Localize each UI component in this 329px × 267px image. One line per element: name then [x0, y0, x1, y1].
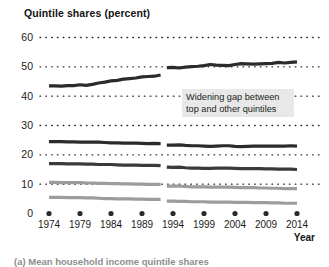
xaxis-tick-label: 1974 — [34, 219, 64, 230]
xaxis-tick-label: 2009 — [251, 219, 281, 230]
series-line-5-segment-2 — [167, 201, 297, 203]
xaxis-tick-dot — [77, 211, 82, 216]
xaxis-tick-label: 1984 — [96, 219, 126, 230]
yaxis-tick-label: 50 — [11, 60, 33, 72]
yaxis-tick-label: 30 — [11, 119, 33, 131]
xaxis-tick-label: 1999 — [189, 219, 219, 230]
chart-annotation-widening-gap: Widening gap between top and other quint… — [182, 89, 294, 117]
series-line-1-segment-1 — [49, 75, 161, 86]
series-line-2-segment-2 — [167, 145, 297, 147]
xaxis-tick-dot — [294, 211, 299, 216]
yaxis-tick-label: 20 — [11, 148, 33, 160]
series-line-4-segment-1 — [49, 182, 161, 184]
xaxis-tick-label: 2004 — [220, 219, 250, 230]
yaxis-tick-label: 60 — [11, 31, 33, 43]
yaxis-tick-label: 40 — [11, 90, 33, 102]
series-line-2-segment-1 — [49, 142, 161, 144]
xaxis-tick-dot — [201, 211, 206, 216]
yaxis-tick-label: 0 — [11, 207, 33, 219]
xaxis-tick-dot — [232, 211, 237, 216]
figure-caption: (a) Mean household income quintile share… — [14, 256, 209, 267]
xaxis-tick-marks-group — [46, 211, 299, 216]
yaxis-tick-label: 10 — [11, 178, 33, 190]
xaxis-tick-dot — [170, 211, 175, 216]
xaxis-tick-label: 1994 — [158, 219, 188, 230]
xaxis-tick-label: 1979 — [65, 219, 95, 230]
series-line-3-segment-1 — [49, 164, 161, 166]
xaxis-tick-dot — [108, 211, 113, 216]
xaxis-tick-dot — [139, 211, 144, 216]
xaxis-tick-dot — [263, 211, 268, 216]
xaxis-tick-label: 1989 — [127, 219, 157, 230]
series-line-3-segment-2 — [167, 167, 297, 169]
xaxis-title: Year — [294, 232, 315, 243]
data-series-group — [49, 62, 297, 203]
series-line-5-segment-1 — [49, 197, 161, 199]
xaxis-tick-label: 2014 — [282, 219, 312, 230]
xaxis-tick-dot — [46, 211, 51, 216]
series-line-4-segment-2 — [167, 186, 297, 188]
